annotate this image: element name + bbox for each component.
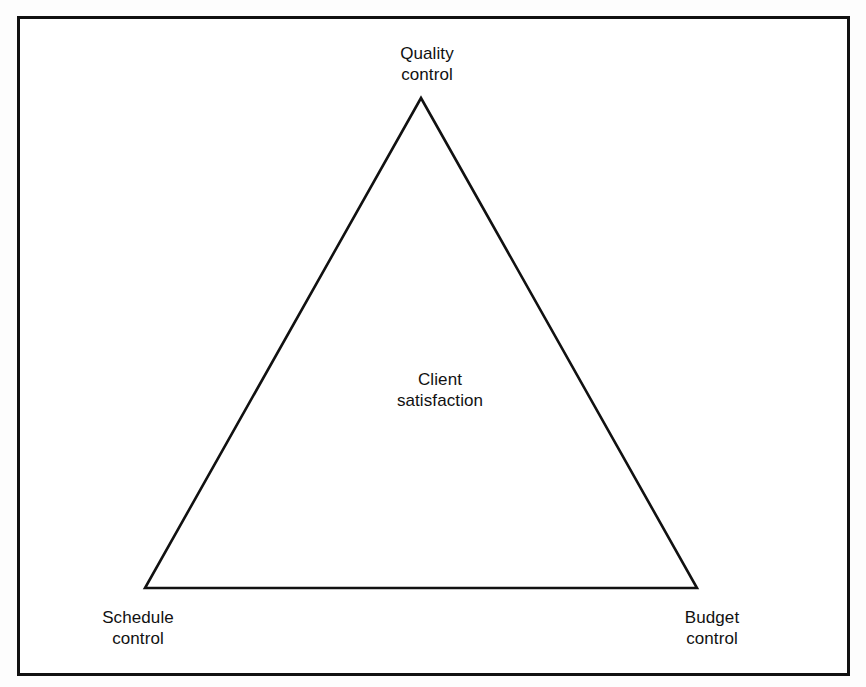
- diagram-root: Quality control Client satisfaction Sche…: [0, 0, 866, 687]
- label-schedule-control: Schedule control: [58, 607, 218, 649]
- figure-frame: [17, 16, 850, 676]
- label-budget-control: Budget control: [632, 607, 792, 649]
- label-quality-control: Quality control: [347, 43, 507, 85]
- label-client-satisfaction: Client satisfaction: [350, 369, 530, 411]
